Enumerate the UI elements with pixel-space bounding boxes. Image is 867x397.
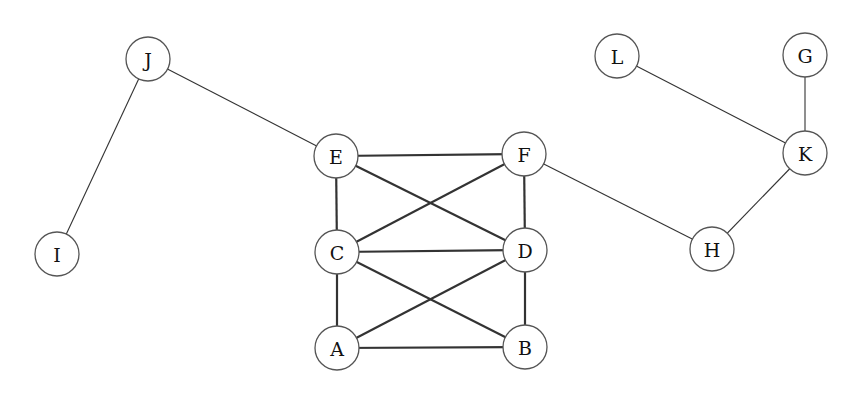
edge-j-e [148,59,336,156]
graph-canvas: JIEFCDABLGKH [0,0,867,397]
node-g: G [783,33,827,77]
node-l: L [595,34,639,78]
node-c: C [315,230,359,274]
node-e: E [314,134,358,178]
node-j: J [126,37,170,81]
node-label: L [611,46,624,68]
graph-diagram: JIEFCDABLGKH [0,0,867,397]
node-label: G [797,45,812,67]
node-label: B [518,337,532,359]
node-b: B [503,325,547,369]
edges-layer [57,55,805,348]
node-h: H [690,227,734,271]
node-label: F [517,144,530,166]
node-d: D [503,228,547,272]
node-label: H [704,239,721,261]
node-label: K [798,143,813,165]
node-label: D [517,240,532,262]
edge-a-b [337,347,525,348]
node-k: K [783,131,827,175]
edge-j-i [57,59,148,254]
node-label: A [329,338,344,360]
node-a: A [315,326,359,370]
node-label: C [330,242,345,264]
node-f: F [502,132,546,176]
edge-e-f [336,154,524,156]
node-label: E [329,146,343,168]
edge-l-k [617,56,805,153]
edge-f-c [337,154,524,252]
node-label: J [142,49,152,71]
node-i: I [35,232,79,276]
node-label: I [53,244,61,266]
edge-c-d [337,250,525,252]
edge-f-h [524,154,712,249]
